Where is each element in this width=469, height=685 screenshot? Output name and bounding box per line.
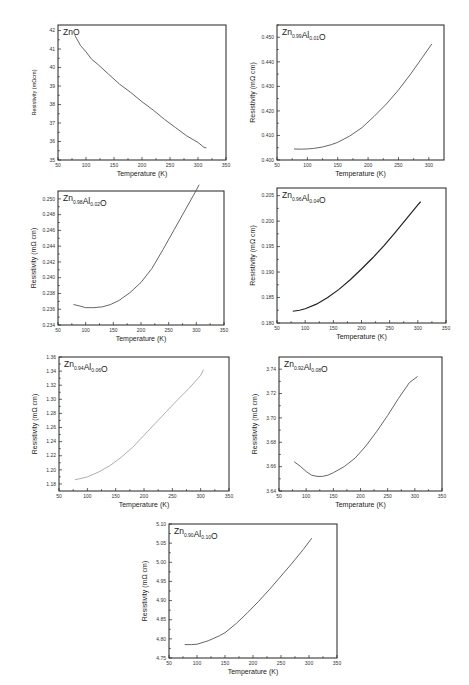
chart-svg: 501001502002503003504.754.804.854.904.95…	[0, 0, 469, 685]
x-tick-label: 100	[193, 660, 202, 666]
x-tick-label: 150	[221, 660, 230, 666]
panel-title: Zn0.90Al0.10O	[174, 526, 218, 541]
y-tick-label: 4.85	[156, 616, 166, 622]
x-tick-label: 200	[249, 660, 258, 666]
y-tick-label: 4.80	[156, 636, 166, 642]
y-tick-label: 4.90	[156, 597, 166, 603]
x-axis-label: Temperature (K)	[228, 668, 279, 676]
resistivity-curve	[185, 538, 312, 644]
y-tick-label: 4.95	[156, 578, 166, 584]
y-tick-label: 5.00	[156, 559, 166, 565]
plot-frame	[169, 524, 337, 658]
x-tick-label: 300	[305, 660, 314, 666]
y-axis-label: Resistivity (mΩ cm)	[141, 561, 149, 621]
x-tick-label: 350	[333, 660, 342, 666]
y-tick-label: 5.05	[156, 540, 166, 546]
y-tick-label: 4.75	[156, 655, 166, 661]
x-tick-label: 50	[166, 660, 172, 666]
y-tick-label: 5.10	[156, 521, 166, 527]
x-tick-label: 250	[277, 660, 286, 666]
